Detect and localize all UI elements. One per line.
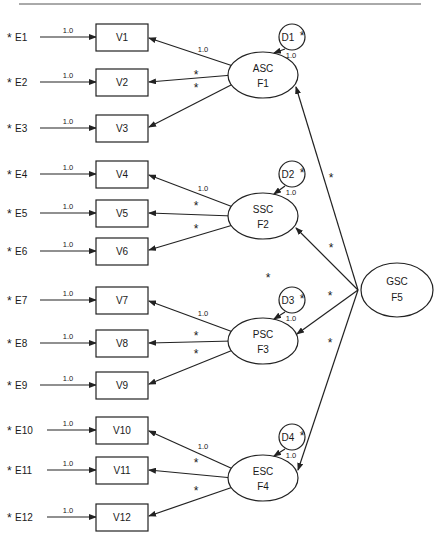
disturbance-weight: 1.0 bbox=[286, 51, 296, 60]
disturbance-label: D2 bbox=[282, 169, 295, 180]
indicator-label: V2 bbox=[116, 77, 129, 88]
error-label: E11 bbox=[15, 465, 32, 476]
error-label: E1 bbox=[15, 32, 28, 43]
factor-esc: *E101.0V101.0*E111.0V11**E121.0V12*ESCF4… bbox=[7, 417, 305, 531]
error-weight: 1.0 bbox=[63, 374, 73, 383]
factor-name: PSC bbox=[253, 329, 274, 340]
path-label-gsc-ssc: * bbox=[329, 241, 334, 255]
indicator-label: V6 bbox=[116, 246, 129, 257]
disturbance-label: D1 bbox=[282, 32, 295, 43]
error-star: * bbox=[7, 337, 12, 351]
error-star: * bbox=[7, 122, 12, 136]
loading-arrow bbox=[149, 431, 233, 469]
indicator-label: V8 bbox=[116, 338, 129, 349]
loading-arrow bbox=[149, 213, 233, 216]
loading-arrow bbox=[149, 38, 233, 66]
error-star: * bbox=[7, 511, 12, 525]
disturbance-weight: 1.0 bbox=[286, 188, 296, 197]
gsc-id: F5 bbox=[391, 292, 403, 303]
loading-label: * bbox=[194, 222, 199, 236]
error-weight: 1.0 bbox=[63, 163, 73, 172]
error-label: E2 bbox=[15, 77, 28, 88]
gsc-ellipse bbox=[361, 263, 433, 317]
factor-ellipse bbox=[228, 455, 298, 501]
loading-label: 1.0 bbox=[198, 442, 208, 451]
loading-label: * bbox=[194, 329, 199, 343]
loading-arrow bbox=[149, 84, 233, 127]
error-label: E9 bbox=[15, 380, 28, 391]
disturbance-star: * bbox=[300, 292, 305, 306]
indicator-label: V3 bbox=[116, 123, 129, 134]
factor-ssc: *E41.0V41.0*E51.0V5**E61.0V6*SSCF2D2*1.0 bbox=[7, 161, 305, 265]
path-label-gsc-psc: * bbox=[328, 289, 333, 303]
factor-ellipse bbox=[228, 193, 298, 239]
loading-arrow bbox=[149, 350, 233, 384]
indicator-label: V1 bbox=[116, 32, 129, 43]
disturbance-arrow bbox=[274, 312, 285, 319]
loading-label: * bbox=[194, 68, 199, 82]
factor-ellipse bbox=[228, 318, 298, 364]
path-label-gsc-asc: * bbox=[329, 171, 334, 185]
loading-arrow bbox=[149, 175, 233, 207]
error-label: E5 bbox=[15, 208, 28, 219]
disturbance-star: * bbox=[300, 429, 305, 443]
loading-label: * bbox=[194, 456, 199, 470]
indicator-label: V4 bbox=[116, 169, 129, 180]
disturbance-arrow bbox=[274, 449, 285, 456]
disturbance-weight: 1.0 bbox=[286, 314, 296, 323]
loading-label: 1.0 bbox=[198, 45, 208, 54]
error-star: * bbox=[7, 379, 12, 393]
error-label: E3 bbox=[15, 123, 28, 134]
error-star: * bbox=[7, 168, 12, 182]
error-star: * bbox=[7, 294, 12, 308]
disturbance-arrow bbox=[274, 49, 285, 53]
loading-label: 1.0 bbox=[198, 184, 208, 193]
loading-label: * bbox=[194, 484, 199, 498]
error-label: E8 bbox=[15, 338, 28, 349]
error-weight: 1.0 bbox=[63, 26, 73, 35]
error-label: E4 bbox=[15, 169, 28, 180]
factor-id: F2 bbox=[257, 219, 269, 230]
error-star: * bbox=[7, 207, 12, 221]
factor-name: ASC bbox=[253, 63, 274, 74]
indicator-label: V5 bbox=[116, 208, 129, 219]
factor-name: SSC bbox=[253, 204, 274, 215]
sem-diagram: *E11.0V11.0*E21.0V2**E31.0V3*ASCF1D1*1.0… bbox=[0, 0, 447, 547]
error-weight: 1.0 bbox=[63, 117, 73, 126]
factor-id: F3 bbox=[257, 344, 269, 355]
path-gsc-esc bbox=[298, 290, 358, 470]
error-weight: 1.0 bbox=[63, 289, 73, 298]
factor-name: ESC bbox=[253, 466, 274, 477]
loading-arrow bbox=[149, 341, 233, 343]
gsc-name: GSC bbox=[386, 276, 408, 287]
loading-label: * bbox=[194, 199, 199, 213]
indicator-label: V10 bbox=[113, 425, 131, 436]
loading-arrow bbox=[149, 225, 233, 250]
error-label: E6 bbox=[15, 246, 28, 257]
disturbance-label: D3 bbox=[282, 295, 295, 306]
loading-label: * bbox=[194, 347, 199, 361]
error-weight: 1.0 bbox=[63, 240, 73, 249]
indicator-label: V12 bbox=[113, 512, 131, 523]
error-weight: 1.0 bbox=[63, 332, 73, 341]
disturbance-star: * bbox=[300, 166, 305, 180]
factor-psc: *E71.0V71.0*E81.0V8**E91.0V9*PSCF3D3*1.0 bbox=[7, 287, 305, 399]
factor-gsc: GSC F5 bbox=[361, 263, 433, 317]
indicator-label: V11 bbox=[113, 465, 130, 476]
error-star: * bbox=[7, 464, 12, 478]
extra-star: * bbox=[266, 271, 271, 285]
loading-arrow bbox=[149, 75, 233, 82]
loading-arrow bbox=[149, 487, 233, 516]
error-weight: 1.0 bbox=[63, 419, 73, 428]
loading-arrow bbox=[149, 470, 233, 478]
disturbance-arrow bbox=[274, 186, 285, 194]
error-weight: 1.0 bbox=[63, 459, 73, 468]
error-star: * bbox=[7, 31, 12, 45]
factor-id: F1 bbox=[257, 78, 269, 89]
disturbance-weight: 1.0 bbox=[286, 451, 296, 460]
indicator-label: V9 bbox=[116, 380, 129, 391]
disturbance-label: D4 bbox=[282, 432, 295, 443]
path-label-gsc-esc: * bbox=[328, 336, 333, 350]
loading-arrow bbox=[149, 301, 233, 332]
loading-label: 1.0 bbox=[198, 309, 208, 318]
